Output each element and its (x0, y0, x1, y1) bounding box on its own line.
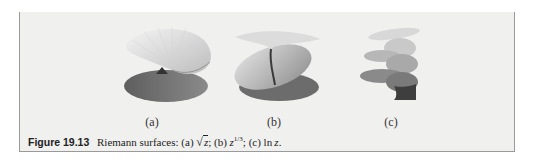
power-exponent: 1/3 (234, 135, 243, 143)
radical-sign-icon: √ (196, 135, 203, 149)
subfigure-label-b: (b) (267, 115, 281, 130)
separator: ; (243, 136, 246, 148)
riemann-surface-log-image (354, 24, 424, 106)
separator: ; (208, 136, 211, 148)
subfigure-label-c: (c) (384, 115, 397, 130)
sqrt-expression: √z (196, 135, 208, 150)
panel-b-cuberoot-surface (225, 25, 325, 105)
subfigure-label-a: (a) (145, 115, 158, 130)
panel-c-log-surface (354, 24, 424, 106)
caption-part-b-label: (b) (214, 136, 227, 148)
sqrt-radicand: z (203, 135, 208, 148)
figure-box: (a) (b) (c) Figure 19.13 Riemann surface… (19, 12, 515, 152)
figure-number: Figure 19.13 (28, 136, 89, 148)
riemann-surface-sqrt-image (112, 22, 222, 104)
figure-caption: Figure 19.13 Riemann surfaces: (a) √z; (… (28, 135, 281, 150)
caption-prefix: Riemann surfaces: (97, 136, 179, 148)
terminator: . (279, 136, 282, 148)
riemann-surface-cuberoot-image (225, 25, 325, 105)
caption-part-c-label: (c) (249, 136, 261, 148)
log-function: ln (264, 136, 273, 148)
caption-part-a-label: (a) (181, 136, 193, 148)
panel-a-sqrt-surface (112, 22, 222, 104)
